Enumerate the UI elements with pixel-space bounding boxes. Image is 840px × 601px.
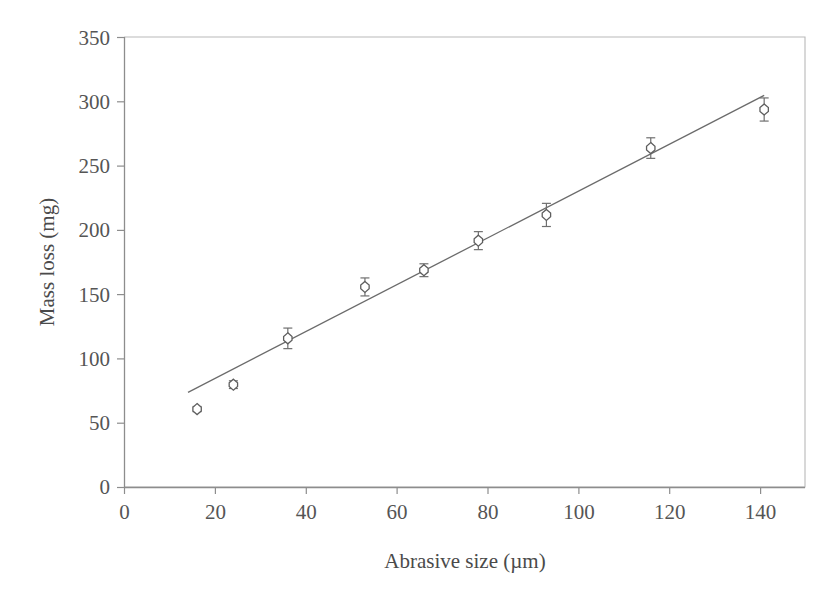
x-tick-label-20: 20 [205,500,226,524]
y-tick-label-0: 0 [100,475,111,499]
y-tick-label-150: 150 [79,283,111,307]
y-tick-label-250: 250 [79,154,111,178]
chart-figure: 0 50 100 150 200 250 300 350 0 20 40 60 [0,0,840,601]
y-tick-label-50: 50 [89,411,110,435]
y-tick-label-100: 100 [79,347,111,371]
x-tick-label-140: 140 [745,500,777,524]
y-axis-title: Mass loss (mg) [35,198,59,326]
scatter-plot-svg: 0 50 100 150 200 250 300 350 0 20 40 60 [0,0,840,601]
y-tick-label-350: 350 [79,26,111,50]
y-tick-label-300: 300 [79,90,111,114]
x-tick-label-40: 40 [296,500,317,524]
x-axis-title: Abrasive size (µm) [384,549,545,573]
x-tick-label-100: 100 [563,500,595,524]
y-tick-label-200: 200 [79,218,111,242]
x-tick-label-80: 80 [478,500,499,524]
x-tick-label-120: 120 [654,500,686,524]
x-tick-label-60: 60 [387,500,408,524]
x-tick-label-0: 0 [119,500,130,524]
data-point [229,379,238,390]
